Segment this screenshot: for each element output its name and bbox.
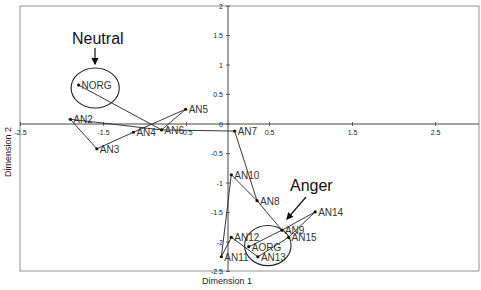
- y-tick-label: 1.5: [213, 32, 223, 39]
- y-tick-label: -2: [217, 239, 223, 246]
- data-point-marker: [230, 236, 233, 239]
- data-point-marker: [287, 236, 290, 239]
- data-point-label: AN2: [73, 114, 93, 125]
- y-tick-label: 0.5: [213, 91, 223, 98]
- x-axis-title: Dimension 1: [202, 276, 252, 286]
- annotation-neutral-label: Neutral: [72, 30, 124, 47]
- data-point-label: AN15: [292, 232, 317, 243]
- y-tick-label: 1: [219, 62, 223, 69]
- data-point-label: NORG: [82, 80, 112, 91]
- y-tick-label: 0: [219, 121, 223, 128]
- data-point-label: AN13: [261, 252, 286, 263]
- data-point-label: AN8: [260, 196, 280, 207]
- data-point-label: AN7: [238, 126, 258, 137]
- data-point-marker: [314, 210, 317, 213]
- y-axis-title: Dimension 2: [3, 127, 13, 177]
- data-point-marker: [233, 129, 236, 132]
- data-point-marker: [184, 108, 187, 111]
- data-point-marker: [280, 229, 283, 232]
- data-point-marker: [230, 173, 233, 176]
- x-tick-label: -2.5: [14, 129, 26, 136]
- x-tick-label: 1.5: [348, 129, 358, 136]
- data-point-marker: [247, 245, 250, 248]
- y-tick-label: -2.5: [211, 268, 223, 275]
- data-point-marker: [69, 118, 72, 121]
- data-point-marker: [220, 255, 223, 258]
- data-point-label: AORG: [252, 242, 282, 253]
- data-point-marker: [77, 83, 80, 86]
- y-tick-label: -0.5: [211, 150, 223, 157]
- y-tick-label: -1.5: [211, 209, 223, 216]
- x-tick-label: 0.5: [265, 129, 275, 136]
- data-point-label: AN5: [189, 104, 209, 115]
- data-point-marker: [255, 199, 258, 202]
- data-point-label: AN3: [100, 144, 120, 155]
- data-point-marker: [160, 128, 163, 131]
- data-point-marker: [256, 255, 259, 258]
- data-point-marker: [132, 131, 135, 134]
- x-tick-label: 2.5: [431, 129, 441, 136]
- data-point-label: AN10: [234, 170, 259, 181]
- data-point-label: AN11: [224, 252, 249, 263]
- annotation-anger-label: Anger: [290, 177, 333, 194]
- y-tick-label: -1: [217, 180, 223, 187]
- data-point-label: AN14: [318, 207, 343, 218]
- mds-scatter-chart: -2.5-1.5-0.50.51.52.521.510.50-0.5-1-1.5…: [0, 0, 481, 290]
- data-point-label: AN6: [165, 125, 185, 136]
- data-point-marker: [95, 147, 98, 150]
- x-tick-label: -1.5: [97, 129, 109, 136]
- data-point-label: AN4: [136, 127, 156, 138]
- y-tick-label: 2: [219, 3, 223, 10]
